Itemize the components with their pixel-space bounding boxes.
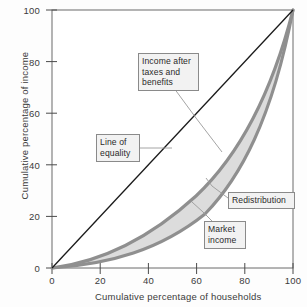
x-tick-80: 80 [232,275,258,286]
x-axis-title: Cumulative percentage of households [95,291,262,302]
x-tick-40: 40 [135,275,161,286]
callout-income-after-taxes: Income after taxes and benefits [138,53,199,91]
y-tick-0: 0 [14,263,40,274]
x-tick-100: 100 [280,275,306,286]
y-tick-100: 100 [14,5,40,16]
x-tick-60: 60 [184,275,210,286]
x-tick-20: 20 [87,275,113,286]
callout-redistribution: Redistribution [228,192,295,209]
callout-line-of-equality: Line of equality [96,134,140,162]
lorenz-curve-figure: 100 80 60 40 20 0 0 20 40 60 80 100 Cumu… [0,0,307,307]
chart-canvas [0,0,307,307]
callout-market-income: Market income [204,221,246,249]
x-tick-0: 0 [39,275,65,286]
y-tick-20: 20 [14,211,40,222]
y-axis-title: Cumulative percentage of income [19,51,30,201]
